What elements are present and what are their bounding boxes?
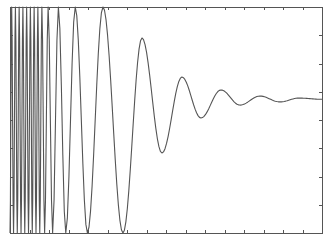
chart-plot	[0, 0, 332, 244]
plot-background	[0, 0, 332, 244]
